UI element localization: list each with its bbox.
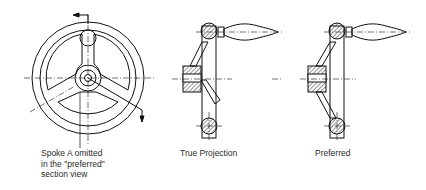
- front-view-wheel: [24, 13, 155, 148]
- caption-true-projection: True Projection: [180, 148, 237, 159]
- caption-preferred: Preferred: [315, 148, 350, 159]
- true-projection-view: [172, 23, 284, 142]
- preferred-view: [272, 23, 412, 142]
- caption-front-view: Spoke A omitted in the "preferred" secti…: [41, 148, 105, 180]
